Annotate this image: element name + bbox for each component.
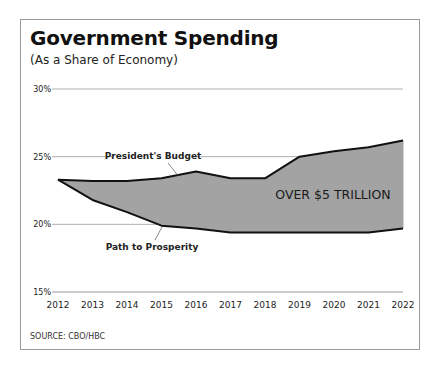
x-tick-label: 2018	[254, 300, 277, 310]
y-tick-label: 30%	[33, 85, 51, 94]
x-tick-label: 2017	[219, 300, 242, 310]
x-tick-label: 2021	[357, 300, 380, 310]
x-tick-label: 2015	[150, 300, 173, 310]
y-tick-label: 25%	[33, 153, 51, 162]
x-tick-label: 2014	[116, 300, 139, 310]
x-tick-label: 2016	[185, 300, 208, 310]
y-tick-label: 20%	[33, 220, 51, 229]
presidents-budget-label: President's Budget	[105, 151, 202, 161]
x-tick-label: 2012	[47, 300, 70, 310]
x-tick-label: 2013	[81, 300, 104, 310]
presidents-budget-leader	[168, 163, 178, 176]
over-5-trillion-label: OVER $5 TRILLION	[275, 187, 390, 202]
x-tick-label: 2022	[392, 300, 415, 310]
area-chart: 15%20%25%30% 201220132014201520162017201…	[0, 0, 440, 370]
y-tick-label: 15%	[33, 288, 51, 297]
path-to-prosperity-label: Path to Prosperity	[106, 242, 199, 252]
x-tick-label: 2019	[288, 300, 311, 310]
x-tick-label: 2020	[323, 300, 346, 310]
path-to-prosperity-leader	[155, 227, 162, 240]
